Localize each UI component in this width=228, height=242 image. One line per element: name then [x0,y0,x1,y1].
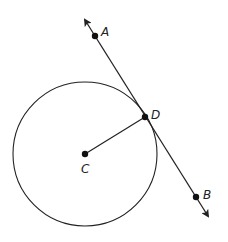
point-a [92,33,98,39]
radius-cd [85,117,145,154]
label-a: A [100,25,109,39]
point-c [82,151,88,157]
diagram-canvas: A D C B [0,0,228,242]
label-d: D [151,108,160,122]
point-d [142,114,148,120]
label-b: B [203,188,211,202]
point-b [193,194,199,200]
label-c: C [81,162,90,176]
